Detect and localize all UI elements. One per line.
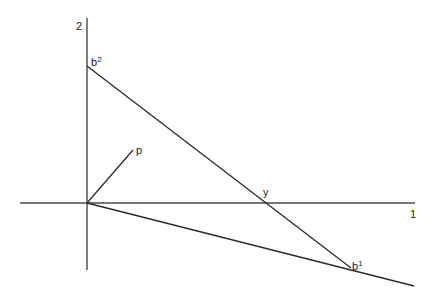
segment-b2-b1 [87, 66, 351, 268]
point-p-label: p [136, 144, 142, 156]
vector-p [87, 150, 133, 203]
point-b2-sup: 2 [97, 55, 102, 64]
point-b1-sup: 1 [358, 259, 363, 268]
point-y-label: y [263, 186, 269, 198]
ray-origin-b1 [87, 203, 414, 286]
axis-2-label: 2 [76, 20, 82, 32]
axis-1-label: 1 [410, 208, 416, 220]
vector-diagram: 2 1 b2 b1 p y [0, 0, 438, 301]
point-b2-label: b2 [91, 55, 102, 68]
point-b1-label: b1 [352, 259, 363, 272]
